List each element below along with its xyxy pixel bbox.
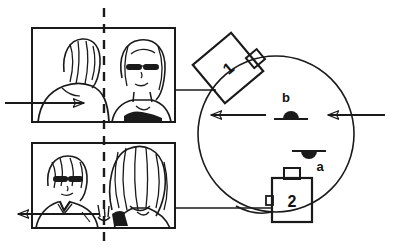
figure-long-hair-bottom — [110, 146, 170, 228]
marker-a-label: a — [316, 159, 324, 174]
marker-a-bump — [301, 151, 317, 159]
figure-back-head — [38, 39, 109, 122]
marker-b: b — [274, 90, 308, 119]
diagram-svg: b a 1 2 — [0, 0, 393, 250]
marker-a: a — [292, 151, 326, 174]
camera-2-label: 2 — [288, 193, 297, 210]
figure-sunglasses-bottom — [36, 156, 110, 228]
marker-b-label: b — [282, 90, 290, 105]
scene-circle — [198, 56, 354, 212]
marker-b-bump — [283, 111, 299, 119]
camera-2[interactable]: 2 — [266, 168, 312, 222]
figure-sunglasses-top — [112, 40, 171, 122]
figure-canvas: b a 1 2 — [0, 0, 393, 250]
camera-1[interactable]: 1 — [193, 27, 270, 103]
